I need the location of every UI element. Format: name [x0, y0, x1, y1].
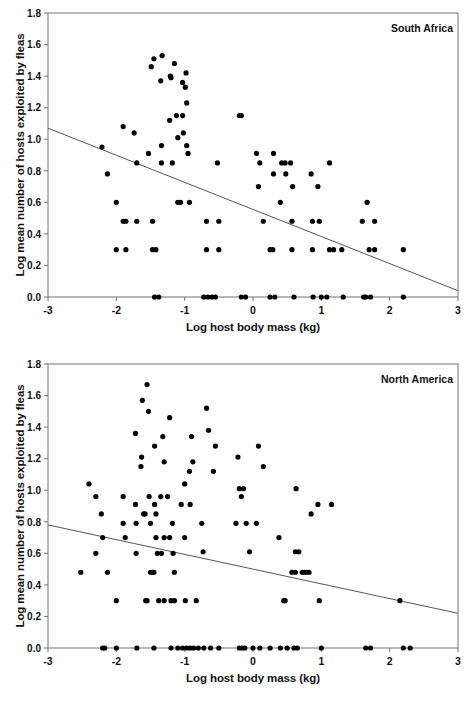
data-point [368, 294, 373, 299]
data-point [93, 551, 98, 556]
data-point [254, 521, 259, 526]
data-point [319, 645, 324, 650]
x-tick-label: -1 [180, 655, 189, 667]
data-point [167, 535, 172, 540]
data-point [181, 130, 186, 135]
data-point [184, 100, 189, 105]
data-point [293, 486, 298, 491]
data-point [204, 219, 209, 224]
data-point [170, 160, 175, 165]
data-point [401, 247, 406, 252]
data-point [408, 645, 413, 650]
data-point [99, 145, 104, 150]
x-tick-label: -2 [112, 304, 121, 316]
data-point [401, 645, 406, 650]
data-point [172, 570, 177, 575]
regression-trendline [48, 128, 458, 291]
region-label-south-africa: South Africa [391, 22, 453, 34]
data-point [187, 200, 192, 205]
x-tick-label: -3 [43, 655, 52, 667]
data-point [289, 247, 294, 252]
data-point [239, 113, 244, 118]
data-point [78, 570, 83, 575]
data-point [329, 502, 334, 507]
data-point [372, 247, 377, 252]
x-tick-label: 0 [250, 304, 256, 316]
data-point [283, 171, 288, 176]
x-tick-label: 2 [387, 655, 393, 667]
x-axis-label-south-africa: Log host body mass (kg) [19, 321, 469, 333]
data-point [150, 219, 155, 224]
data-point [100, 535, 105, 540]
data-point [306, 570, 311, 575]
data-point [105, 171, 110, 176]
data-point [114, 200, 119, 205]
data-point [134, 219, 139, 224]
data-point [185, 151, 190, 156]
data-point [317, 598, 322, 603]
data-point [162, 598, 167, 603]
data-point [397, 598, 402, 603]
data-point [401, 294, 406, 299]
data-point [196, 645, 201, 650]
data-point [156, 598, 161, 603]
data-point [121, 494, 126, 499]
data-point [293, 570, 298, 575]
data-point [149, 64, 154, 69]
data-point [123, 247, 128, 252]
data-point [341, 294, 346, 299]
data-point [134, 551, 139, 556]
plot-frame [48, 364, 458, 648]
data-point [208, 645, 213, 650]
data-point [138, 464, 143, 469]
data-point [151, 645, 156, 650]
data-point [290, 184, 295, 189]
data-point [146, 409, 151, 414]
data-point [86, 481, 91, 486]
data-point [204, 247, 209, 252]
x-tick-label: -3 [43, 304, 52, 316]
data-point [153, 535, 158, 540]
data-point [288, 160, 293, 165]
data-point [134, 645, 139, 650]
data-point [158, 494, 163, 499]
data-point [247, 549, 252, 554]
data-point [121, 521, 126, 526]
data-point [159, 143, 164, 148]
data-point [256, 443, 261, 448]
data-point [114, 645, 119, 650]
data-point [160, 53, 165, 58]
data-point [168, 645, 173, 650]
data-point [272, 294, 277, 299]
data-point [242, 645, 247, 650]
data-point [315, 502, 320, 507]
data-point [310, 247, 315, 252]
data-point [289, 219, 294, 224]
data-point [132, 130, 137, 135]
data-point [211, 469, 216, 474]
data-point [291, 294, 296, 299]
data-point [254, 151, 259, 156]
data-point [206, 428, 211, 433]
data-point-group [78, 382, 413, 651]
data-point [123, 535, 128, 540]
data-point [271, 171, 276, 176]
data-point [278, 200, 283, 205]
data-point [310, 219, 315, 224]
data-point [256, 184, 261, 189]
plot-frame [48, 13, 458, 297]
data-point [183, 85, 188, 90]
data-point [121, 124, 126, 129]
data-point [167, 415, 172, 420]
data-point [360, 219, 365, 224]
data-point [190, 459, 195, 464]
x-tick-label: 3 [455, 304, 461, 316]
region-label-north-america: North America [381, 373, 453, 385]
data-point [367, 247, 372, 252]
data-point [243, 294, 248, 299]
data-point [201, 549, 206, 554]
scatter-plot-south-africa: 0.00.20.40.60.81.01.21.41.61.8-3-2-10123 [0, 0, 469, 350]
data-point [175, 135, 180, 140]
data-point [276, 535, 281, 540]
x-tick-label: 2 [387, 304, 393, 316]
